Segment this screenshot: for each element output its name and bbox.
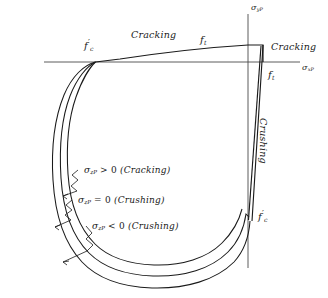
label-ft-right: ft xyxy=(268,68,274,81)
failure-envelope-figure: σyP σxP Cracking Cracking Crushing f′c f… xyxy=(0,0,328,298)
region-label-cracking-right: Cracking xyxy=(271,42,316,52)
curve-inner-path xyxy=(67,62,242,265)
label-fc-prime-bottom: f′c xyxy=(258,210,268,223)
x-axis-label: σxP xyxy=(302,64,314,72)
label-fc-prime-left: f′c xyxy=(84,39,94,52)
leader-lines xyxy=(55,170,93,265)
annotation-sigma-zp-positive: σzP > 0 (Cracking) xyxy=(84,166,170,176)
label-ft-top: ft xyxy=(200,33,206,46)
region-label-crushing: Crushing xyxy=(259,118,269,164)
region-label-cracking-top: Cracking xyxy=(131,30,176,40)
leader-line-3 xyxy=(63,226,93,262)
leader-arrow-3 xyxy=(63,261,69,265)
envelope-curve-inner xyxy=(67,62,242,265)
annotation-sigma-zp-negative: σzP < 0 (Crushing) xyxy=(92,222,179,232)
leader-arrow-2 xyxy=(55,225,60,230)
y-axis-label: σyP xyxy=(251,4,263,12)
annotation-sigma-zp-zero: σzP = 0 (Crushing) xyxy=(78,196,165,206)
